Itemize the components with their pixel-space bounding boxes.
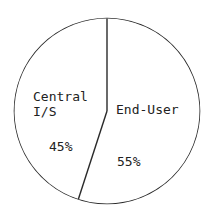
end-user-label: End-User bbox=[116, 102, 179, 117]
central-is-percent-label: 45% bbox=[49, 139, 73, 154]
end-user-percent-label: 55% bbox=[117, 154, 141, 169]
pie-chart: Central I/S 45% End-User 55% bbox=[0, 0, 211, 214]
central-is-label-line-2: I/S bbox=[33, 104, 56, 119]
central-is-label-line-1: Central bbox=[33, 89, 88, 104]
